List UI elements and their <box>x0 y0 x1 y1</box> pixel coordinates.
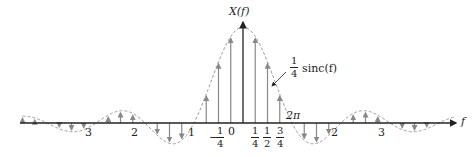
envelope-pointer <box>272 72 286 86</box>
tick-label-neg1: 1 <box>188 127 195 138</box>
tick-label-neg3: 3 <box>85 127 92 138</box>
x-axis-label: f <box>461 116 465 127</box>
period-label: 2π <box>286 110 300 121</box>
tick-label-half: 1 2 <box>263 126 271 149</box>
impulse-arrows <box>23 39 427 142</box>
tick-label-neg-quarter: 1 4 <box>216 126 224 149</box>
y-axis-label: X(f) <box>229 6 250 17</box>
envelope-function-label: sinc(f) <box>302 63 337 74</box>
tick-label-neg2: 2 <box>131 127 138 138</box>
tick-label-zero: 0 <box>228 126 235 137</box>
tick-label-pos2: 2 <box>331 127 338 138</box>
tick-label-quarter: 1 4 <box>251 126 259 149</box>
envelope-coefficient: 1 4 <box>290 56 298 79</box>
tick-label-pos3: 3 <box>378 127 385 138</box>
spectrum-plot <box>0 0 472 157</box>
sinc-spectrum-diagram: X(f) f 1 4 sinc(f) 2π 3 2 1 0 2 3 − 1 4 … <box>0 0 472 157</box>
tick-label-three-quarters: 3 4 <box>276 126 284 149</box>
